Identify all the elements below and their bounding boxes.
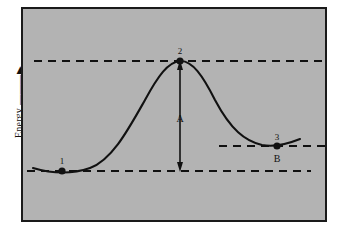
point-label-3: 3 (275, 132, 280, 142)
point-marker-1 (58, 167, 65, 174)
point-marker-3 (273, 142, 280, 149)
point-label-1: 1 (60, 156, 65, 166)
energy-profile-curve (33, 61, 300, 173)
diagram-canvas: 1 2 3 A B (0, 0, 339, 230)
point-label-2: 2 (178, 46, 183, 56)
activation-energy-label: A (176, 113, 184, 124)
reaction-energy-label: B (274, 153, 281, 164)
energy-diagram-figure: Energy———▶ 1 2 3 (0, 0, 339, 230)
point-marker-2 (176, 57, 183, 64)
